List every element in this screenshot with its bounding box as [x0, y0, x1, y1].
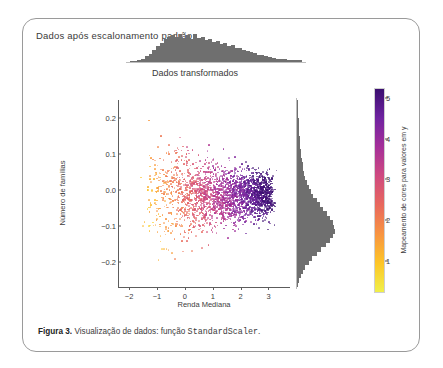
scatter-point — [254, 194, 256, 196]
scatter-point — [168, 153, 170, 155]
scatter-point — [198, 229, 200, 231]
scatter-point — [179, 177, 181, 179]
scatter-point — [189, 192, 191, 194]
x-tick-mark — [185, 287, 186, 290]
scatter-point — [196, 178, 198, 180]
scatter-point — [227, 237, 229, 239]
scatter-point — [244, 222, 246, 224]
scatter-point — [209, 214, 211, 216]
scatter-point — [244, 168, 246, 170]
scatter-point — [241, 191, 243, 193]
scatter-point — [195, 192, 197, 194]
scatter-point — [177, 189, 179, 191]
scatter-point — [264, 219, 266, 221]
scatter-point — [189, 168, 191, 170]
scatter-point — [154, 175, 156, 177]
y-tick-label: −0.1 — [92, 221, 120, 230]
scatter-point — [181, 201, 183, 203]
scatter-point — [205, 159, 207, 161]
scatter-point — [234, 156, 236, 158]
scatter-point — [211, 161, 213, 163]
colorbar-label: Mapeamento de cores para valores em y — [400, 126, 407, 253]
scatter-point — [191, 194, 193, 196]
scatter-point — [192, 163, 194, 165]
scatter-point — [262, 217, 264, 219]
scatter-point — [254, 209, 256, 211]
scatter-point — [202, 166, 204, 168]
scatter-point — [184, 219, 186, 221]
scatter-point — [234, 216, 236, 218]
scatter-point — [206, 222, 208, 224]
scatter-point — [196, 183, 198, 185]
scatter-point — [271, 183, 273, 185]
scatter-point — [240, 196, 242, 198]
scatter-point — [247, 188, 249, 190]
scatter-point — [181, 150, 183, 152]
scatter-point — [213, 185, 215, 187]
scatter-point — [157, 231, 159, 233]
scatter-point — [175, 152, 177, 154]
scatter-point — [249, 206, 251, 208]
scatter-point — [239, 208, 241, 210]
scatter-point — [228, 171, 230, 173]
scatter-point — [274, 206, 276, 208]
scatter-point — [206, 213, 208, 215]
scatter-point — [238, 185, 240, 187]
scatter-point — [249, 211, 251, 213]
scatter-point — [186, 182, 188, 184]
scatter-point — [264, 177, 266, 179]
scatter-point — [156, 215, 158, 217]
scatter-point — [200, 170, 202, 172]
scatter-point — [219, 204, 221, 206]
scatter-point — [208, 162, 210, 164]
scatter-point — [229, 181, 231, 183]
scatter-point — [187, 184, 189, 186]
scatter-point — [226, 219, 228, 221]
y-tick-label: 0.0 — [92, 185, 120, 194]
scatter-point — [266, 208, 268, 210]
scatter-point — [157, 165, 159, 167]
scatter-point — [256, 184, 258, 186]
scatter-point — [230, 218, 232, 220]
scatter-point — [256, 223, 258, 225]
scatter-point — [201, 231, 203, 233]
scatter-point — [167, 170, 169, 172]
scatter-point — [152, 222, 154, 224]
scatter-point — [154, 168, 156, 170]
scatter-point — [198, 154, 200, 156]
scatter-point — [247, 217, 249, 219]
scatter-point — [246, 182, 248, 184]
scatter-point — [142, 225, 144, 227]
scatter-point — [199, 225, 201, 227]
scatter-point — [210, 169, 212, 171]
scatter-point — [157, 187, 159, 189]
scatter-point — [224, 218, 226, 220]
scatter-point — [244, 218, 246, 220]
scatter-point — [162, 180, 164, 182]
scatter-point — [229, 204, 231, 206]
scatter-point — [245, 161, 247, 163]
scatter-point — [186, 146, 188, 148]
scatter-point — [265, 184, 267, 186]
scatter-point — [196, 167, 198, 169]
scatter-point — [163, 222, 165, 224]
scatter-point — [216, 232, 218, 234]
scatter-point — [182, 251, 184, 253]
scatter-point — [199, 160, 201, 162]
scatter-point — [253, 200, 255, 202]
scatter-point — [176, 174, 178, 176]
scatter-point — [162, 199, 164, 201]
scatter-point — [159, 208, 161, 210]
scatter-point — [194, 168, 196, 170]
scatter-point — [207, 177, 209, 179]
scatter-point — [189, 217, 191, 219]
scatter-point — [238, 228, 240, 230]
scatter-point — [269, 168, 271, 170]
scatter-point — [235, 225, 237, 227]
scatter-point — [188, 159, 190, 161]
scatter-point — [185, 189, 187, 191]
scatter-point — [166, 204, 168, 206]
scatter-point — [157, 146, 159, 148]
scatter-point — [158, 259, 160, 261]
scatter-point — [178, 161, 180, 163]
